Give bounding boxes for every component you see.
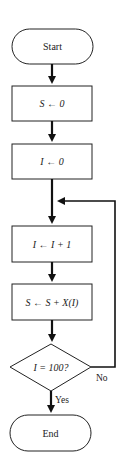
start-label: Start — [43, 41, 62, 52]
end-label: End — [42, 428, 58, 439]
edge-label-no: No — [96, 373, 108, 383]
edge-label-yes: Yes — [55, 395, 69, 405]
init-i-label: I ← 0 — [39, 156, 63, 167]
process-init-i: I ← 0 — [12, 144, 92, 179]
increment-i-label: I ← I + 1 — [32, 239, 71, 250]
process-increment-i: I ← I + 1 — [12, 226, 92, 262]
flowchart: Start S ← 0 I ← 0 I ← I + 1 S ← S + X(I)… — [0, 0, 123, 464]
process-init-s: S ← 0 — [12, 86, 92, 121]
init-s-label: S ← 0 — [40, 98, 65, 109]
start-node: Start — [12, 29, 93, 64]
accumulate-label: S ← S + X(I) — [26, 297, 80, 309]
decision-check: I = 100? — [10, 344, 91, 391]
end-node: End — [10, 415, 91, 451]
decision-label: I = 100? — [32, 362, 68, 373]
process-accumulate: S ← S + X(I) — [12, 284, 92, 320]
